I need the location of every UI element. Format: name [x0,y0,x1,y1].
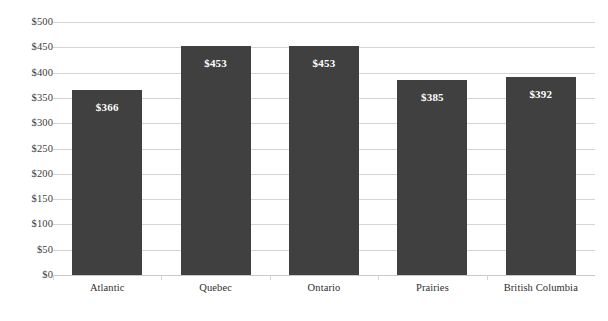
x-axis-tick-mark [378,275,379,280]
bar-value-label: $366 [72,101,142,113]
y-axis-tick-label: $450 [5,42,53,52]
y-axis: $0$50$100$150$200$250$300$350$400$450$50… [0,22,53,275]
bar-value-label: $385 [397,91,467,103]
y-axis-tick-label: $150 [5,194,53,204]
y-axis-tick-label: $100 [5,219,53,229]
gridline [53,275,595,276]
bar: $366 [72,90,142,275]
bar-value-label: $453 [181,57,251,69]
bar-value-label: $392 [506,88,576,100]
x-axis-category-label: Ontario [270,281,378,294]
bar-chart: $0$50$100$150$200$250$300$350$400$450$50… [0,0,608,321]
y-axis-tick-label: $200 [5,169,53,179]
y-axis-tick-label: $250 [5,144,53,154]
plot-area: $366$453$453$385$392 [53,22,595,275]
x-axis-tick-mark [161,275,162,280]
x-axis-category-label: Quebec [161,281,269,294]
x-axis-tick-mark [53,275,54,280]
x-axis-category-label: British Columbia [487,281,595,294]
y-axis-tick-label: $500 [5,17,53,27]
x-axis-tick-mark [487,275,488,280]
y-axis-tick-label: $400 [5,68,53,78]
x-axis-category-label: Prairies [378,281,486,294]
x-axis-tick-mark [270,275,271,280]
bar-value-label: $453 [289,57,359,69]
bar: $453 [181,46,251,275]
y-axis-tick-label: $50 [5,245,53,255]
bar: $392 [506,77,576,275]
bar: $453 [289,46,359,275]
y-axis-tick-label: $0 [5,270,53,280]
y-axis-tick-label: $350 [5,93,53,103]
y-axis-tick-label: $300 [5,118,53,128]
bar: $385 [397,80,467,275]
gridline [53,22,595,23]
x-axis-category-label: Atlantic [53,281,161,294]
